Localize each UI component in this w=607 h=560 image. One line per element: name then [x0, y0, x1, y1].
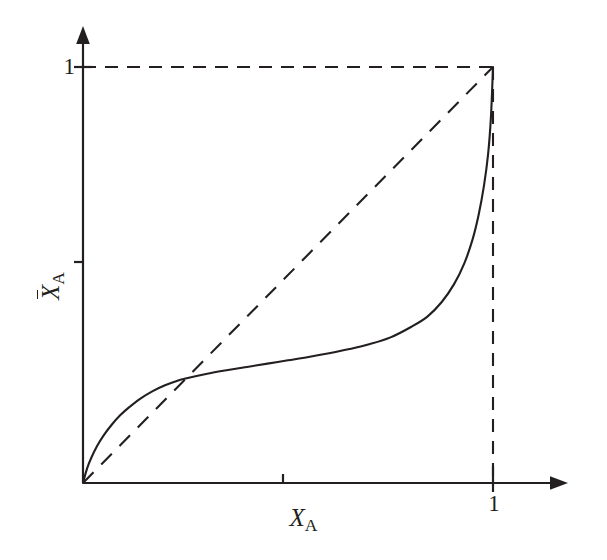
y-axis-title-subscript: A [48, 272, 68, 285]
guide-lines-group [83, 67, 493, 483]
y-axis-title-var: X [37, 285, 64, 300]
x-axis-title-subscript: A [305, 515, 318, 535]
y-axis-arrowhead-icon [76, 26, 90, 44]
y-axis-title-overbar-wrap: X [36, 285, 63, 300]
y-axis-title: XA [36, 272, 67, 300]
y-axis-tick-label-one: 1 [55, 55, 75, 78]
figure-root: 1 1 XA XA [0, 0, 607, 560]
axes-group [76, 26, 568, 490]
x-axis-arrowhead-icon [550, 476, 568, 490]
x-axis-title: XA [0, 505, 607, 534]
chart-canvas [0, 0, 607, 560]
overbar-mark [37, 290, 39, 300]
guide-line-diagonal [83, 67, 493, 483]
x-axis-title-var: X [290, 504, 305, 531]
